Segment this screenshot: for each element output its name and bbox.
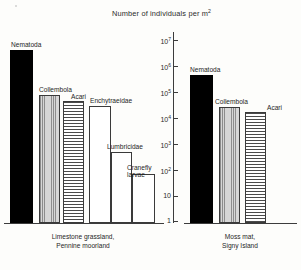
y-axis-tick-10e7 <box>173 40 178 41</box>
y-axis-ticklabel-10e2: 102 <box>160 166 171 175</box>
bar-label-limestone-cranefly-larvae: Craneflylarvae <box>127 164 152 179</box>
bar-label-moss-acari: Acari <box>267 104 282 111</box>
bar-moss-nematoda <box>190 75 213 223</box>
bar-limestone-nematoda <box>10 50 33 223</box>
bar-label-limestone-acari: Acari <box>71 93 86 100</box>
bar-label-limestone-nematoda: Nematoda <box>11 41 41 48</box>
bar-limestone-enchytraeidae <box>89 106 111 223</box>
y-axis-ticklabel-1: 1 <box>167 217 171 224</box>
y-axis-tick-10e3 <box>173 144 178 145</box>
group-caption-limestone: Limestone grassland,Pennine moorland <box>18 233 148 250</box>
bar-label-moss-collembola: Collembola <box>215 98 248 105</box>
y-axis-ticklabel-10e7: 107 <box>160 36 171 45</box>
bar-chart-figure: Number of individuals per m2 107 106 105… <box>0 0 301 270</box>
chart-title: Number of individuals per m2 <box>112 8 292 18</box>
scan-speck <box>15 5 17 7</box>
chart-title-text: Number of individuals per m <box>112 9 208 18</box>
y-axis-tick-10 <box>173 196 178 197</box>
bar-limestone-cranefly-larvae <box>132 174 155 223</box>
y-axis-tick-1 <box>173 221 178 222</box>
y-axis-tick-10e6 <box>173 66 178 67</box>
baseline-right-group <box>184 223 297 224</box>
y-axis-line <box>173 32 174 223</box>
y-axis-tick-10e5 <box>173 92 178 93</box>
bar-label-moss-nematoda: Nematoda <box>190 66 220 73</box>
baseline-left-group <box>4 223 164 224</box>
bar-limestone-lumbricidae <box>111 152 132 223</box>
y-axis-tick-10e2 <box>173 170 178 171</box>
bar-label-limestone-enchytraeidae: Enchytraeidae <box>90 97 132 104</box>
y-axis-tick-10e4 <box>173 118 178 119</box>
y-axis-ticklabel-10e5: 105 <box>160 88 171 97</box>
group-caption-moss: Moss mat,Signy Island <box>190 233 290 250</box>
chart-title-superscript: 2 <box>208 8 211 14</box>
y-axis-ticklabel-10e4: 104 <box>160 114 171 123</box>
bar-label-limestone-collembola: Collembola <box>39 86 72 93</box>
bar-label-limestone-lumbricidae: Lumbricidae <box>107 143 143 150</box>
bar-limestone-collembola <box>39 95 60 223</box>
y-axis-ticklabel-10: 10 <box>163 192 171 199</box>
bar-moss-collembola <box>219 107 240 223</box>
bar-moss-acari <box>245 112 266 223</box>
bar-limestone-acari <box>63 101 84 223</box>
y-axis-ticklabel-10e6: 106 <box>160 62 171 71</box>
y-axis-ticklabel-10e3: 103 <box>160 140 171 149</box>
